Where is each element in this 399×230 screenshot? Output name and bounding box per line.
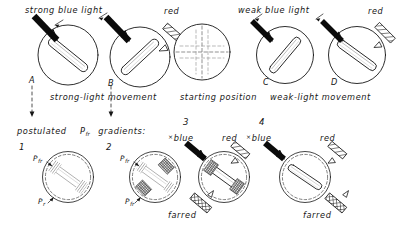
label-blue-3: ×blue [168, 134, 194, 142]
caption-strong-light-movement: strong-light movement [50, 93, 157, 101]
label-red-3: red [222, 134, 237, 142]
figure-canvas: strong blue light red weak blue light re… [0, 0, 399, 230]
panel-1[interactable] [42, 151, 94, 203]
label-strong-blue-light: strong blue light [25, 6, 103, 14]
heading-prefix: postulated [17, 126, 67, 136]
heading-postulated-pfr-gradients: postulated Pfr gradients: [17, 127, 146, 137]
panel-4[interactable] [279, 151, 331, 203]
label-weak-blue-light: weak blue light [238, 6, 310, 14]
panel-number-2: 2 [106, 143, 111, 152]
caption-starting-position: starting position [180, 93, 257, 101]
panel-3[interactable] [198, 151, 250, 203]
label-blue-4: ×blue [246, 134, 272, 142]
label-farred-3: farred [168, 211, 196, 219]
label-red-top-right: red [368, 7, 383, 15]
panel-a[interactable] [38, 25, 98, 85]
label-red-top-left: red [164, 7, 179, 15]
label-red-4: red [320, 134, 335, 142]
panel-starting-position[interactable] [174, 24, 230, 80]
panel-c[interactable] [256, 26, 314, 84]
label-farred-4: farred [303, 211, 331, 219]
label-pfr-panel2-top: Pfr [120, 155, 129, 164]
panel-number-4: 4 [259, 118, 264, 127]
panel-number-3: 3 [183, 118, 188, 127]
blue-text: blue [174, 133, 194, 143]
panel-2[interactable] [129, 151, 181, 203]
panel-letter-a: A [29, 76, 35, 84]
label-pfr-panel1: Pfr [33, 155, 42, 164]
panel-number-1: 1 [19, 143, 24, 152]
heading-suffix: gradients: [98, 126, 146, 136]
heading-symbol-subscript: fr [86, 131, 90, 137]
panel-b[interactable] [110, 27, 170, 87]
guide-arrow-a [30, 86, 35, 117]
caption-weak-light-movement: weak-light movement [270, 93, 371, 101]
blue-text: blue [252, 133, 272, 143]
panel-d[interactable] [328, 26, 386, 84]
